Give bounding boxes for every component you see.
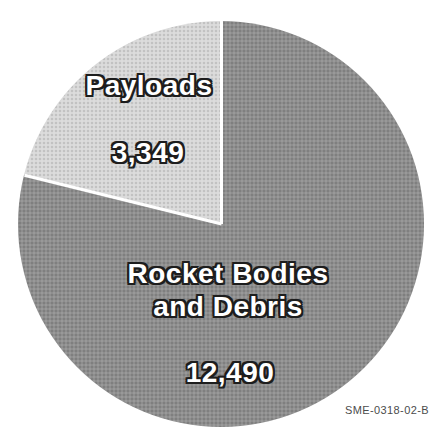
slice-label-rocket-bodies-line1: Rocket Bodies — [128, 257, 329, 290]
slice-divider-top — [220, 21, 223, 224]
slice-label-rocket-bodies: Rocket Bodies and Debris — [128, 257, 329, 323]
slice-value-payloads: 3,349 — [112, 136, 185, 169]
slice-label-payloads: Payloads — [86, 69, 213, 102]
slice-label-rocket-bodies-line2: and Debris — [128, 290, 329, 323]
figure-id: SME-0318-02-B — [345, 404, 429, 416]
slice-divider-left — [24, 174, 222, 226]
pie-chart-figure: Payloads 3,349 Rocket Bodies and Debris … — [0, 0, 434, 445]
slice-value-rocket-bodies: 12,490 — [186, 356, 275, 389]
pie: Payloads 3,349 Rocket Bodies and Debris … — [18, 21, 424, 427]
